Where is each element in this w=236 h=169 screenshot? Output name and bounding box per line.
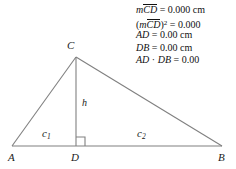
ad-times-db-value: 0.00 bbox=[182, 54, 200, 65]
geometry-diagram-canvas: A B C D h c1 c2 mCD = 0.000 cm (mCD)2 = … bbox=[0, 0, 236, 169]
multiplication-dot-icon: · bbox=[149, 54, 157, 65]
vertex-label-C: C bbox=[67, 40, 74, 51]
m-cd-unit: cm bbox=[190, 4, 205, 15]
segment-label-c2-subscript: 2 bbox=[142, 132, 146, 141]
vertex-label-D: D bbox=[71, 152, 79, 163]
ad-relation: = bbox=[149, 29, 160, 40]
m-cd-squared-prefix: m bbox=[139, 19, 146, 30]
measurement-row-m-cd: mCD = 0.000 cm bbox=[136, 4, 236, 17]
vertex-label-A: A bbox=[8, 152, 15, 163]
m-cd-value: 0.000 bbox=[168, 4, 191, 15]
db-value: 0.00 bbox=[160, 42, 178, 53]
ad-label: AD bbox=[136, 29, 149, 40]
m-cd-prefix: m bbox=[136, 4, 143, 15]
altitude-label-h: h bbox=[82, 98, 87, 108]
ad-times-db-right-label: DB bbox=[158, 54, 171, 65]
db-unit: cm bbox=[177, 42, 192, 53]
db-label: DB bbox=[136, 42, 149, 53]
measurement-row-m-cd-squared: (mCD)2 = 0.000 bbox=[136, 17, 236, 30]
measurement-row-db: DB = 0.00 cm bbox=[136, 42, 236, 55]
m-cd-relation: = bbox=[157, 4, 168, 15]
ad-value: 0.00 bbox=[160, 29, 178, 40]
ad-times-db-relation: = bbox=[171, 54, 182, 65]
m-cd-overline-segment: CD bbox=[143, 4, 157, 16]
m-cd-squared-value: 0.000 bbox=[178, 19, 201, 30]
ad-unit: cm bbox=[177, 29, 192, 40]
ad-times-db-left-label: AD bbox=[136, 54, 149, 65]
segment-CB bbox=[76, 57, 222, 146]
segment-label-c1-subscript: 1 bbox=[47, 132, 51, 141]
db-relation: = bbox=[149, 42, 160, 53]
segment-label-c1: c1 bbox=[42, 128, 51, 141]
measurement-row-ad: AD = 0.00 cm bbox=[136, 29, 236, 42]
right-angle-marker bbox=[76, 137, 85, 146]
segment-label-c2: c2 bbox=[137, 128, 146, 141]
measurement-readout-panel: mCD = 0.000 cm (mCD)2 = 0.000 AD = 0.00 … bbox=[136, 4, 236, 67]
measurement-row-ad-times-db: AD · DB = 0.00 bbox=[136, 54, 236, 67]
m-cd-squared-relation: = bbox=[167, 19, 178, 30]
vertex-label-B: B bbox=[218, 152, 225, 163]
